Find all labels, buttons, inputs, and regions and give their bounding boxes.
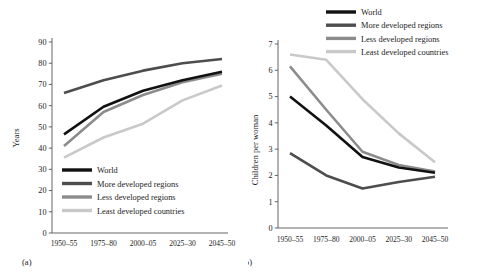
y-tick-label: 0 — [268, 224, 272, 233]
series-line-least-developed-countries — [290, 55, 435, 163]
y-tick-label: 2 — [268, 171, 272, 180]
legend-label-world: World — [361, 8, 383, 17]
y-tick-label: 0 — [42, 229, 46, 238]
series-line-world — [290, 97, 435, 173]
y-axis-ticks: 0102030405060708090 — [38, 38, 52, 238]
y-tick-label: 6 — [268, 66, 272, 75]
x-tick-label: 2000–05 — [130, 239, 157, 248]
legend-label-least-developed-countries: Least developed countries — [97, 207, 184, 216]
y-axis-title: Years — [11, 128, 21, 148]
series-group — [290, 55, 435, 189]
axes — [52, 38, 228, 233]
y-tick-label: 90 — [38, 38, 46, 47]
chart-b-canvas: 012345671950–551975–802000–052025–302045… — [248, 0, 496, 277]
y-tick-label: 60 — [38, 102, 46, 111]
y-tick-label: 4 — [268, 119, 272, 128]
legend-label-least-developed-countries: Least developed countries — [361, 48, 448, 57]
legend-label-world: World — [97, 166, 119, 175]
y-axis-title: Children per woman — [250, 114, 260, 185]
chart-panel-b: 012345671950–551975–802000–052025–302045… — [248, 0, 496, 277]
legend: WorldMore developed regionsLess develope… — [62, 166, 184, 216]
y-tick-label: 50 — [38, 123, 46, 132]
y-tick-label: 1 — [268, 198, 272, 207]
y-tick-label: 3 — [268, 145, 272, 154]
x-tick-label: 1950–55 — [51, 239, 78, 248]
legend-label-more-developed-regions: More developed regions — [97, 180, 178, 189]
two-panel-line-chart-figure: 01020304050607080901950–551975–802000–05… — [0, 0, 496, 277]
x-tick-label: 2045–50 — [422, 235, 449, 244]
series-group — [64, 59, 222, 158]
x-axis-ticks: 1950–551975–802000–052025–302045–50 — [51, 239, 236, 248]
chart-a-canvas: 01020304050607080901950–551975–802000–05… — [0, 0, 248, 277]
y-tick-label: 10 — [38, 208, 46, 217]
x-tick-label: 1975–80 — [90, 239, 117, 248]
y-tick-label: 40 — [38, 144, 46, 153]
legend-label-less-developed-regions: Less developed regions — [361, 35, 440, 44]
y-tick-label: 80 — [38, 59, 46, 68]
axes — [278, 40, 448, 228]
x-tick-label: 2025–30 — [169, 239, 196, 248]
x-tick-label: 2025–30 — [385, 235, 412, 244]
chart-panel-a: 01020304050607080901950–551975–802000–05… — [0, 0, 248, 277]
x-tick-label: 1950–55 — [277, 235, 304, 244]
legend: WorldMore developed regionsLess develope… — [326, 8, 448, 57]
legend-label-less-developed-regions: Less developed regions — [97, 193, 176, 202]
y-tick-label: 5 — [268, 92, 272, 101]
y-axis-ticks: 01234567 — [268, 40, 278, 233]
y-tick-label: 70 — [38, 80, 46, 89]
x-tick-label: 2045–50 — [209, 239, 236, 248]
x-tick-label: 2000–05 — [349, 235, 376, 244]
y-tick-label: 30 — [38, 165, 46, 174]
legend-label-more-developed-regions: More developed regions — [361, 21, 442, 30]
panel-label: (a) — [22, 257, 32, 267]
y-tick-label: 20 — [38, 186, 46, 195]
y-tick-label: 7 — [268, 40, 272, 49]
x-tick-label: 1975–80 — [313, 235, 340, 244]
x-axis-ticks: 1950–551975–802000–052025–302045–50 — [277, 235, 449, 244]
panel-label: (b) — [248, 257, 252, 267]
